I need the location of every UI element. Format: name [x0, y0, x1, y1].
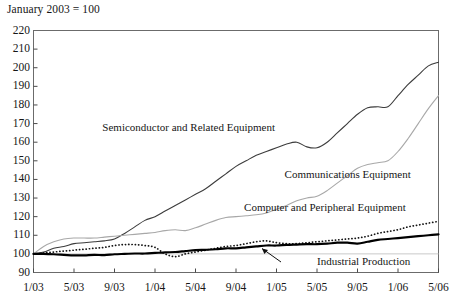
series-label-semiconductor: Semiconductor and Related Equipment [102, 121, 275, 133]
x-tick-5-05: 5/05 [307, 282, 327, 294]
x-tick-1-05: 1/05 [266, 282, 286, 294]
x-tick-9-05: 9/05 [347, 282, 367, 294]
series-label-computer: Computer and Peripheral Equipment [244, 201, 406, 213]
chart-figure: January 2003 = 100 901001101201301401501… [0, 0, 460, 308]
x-tick-9-04: 9/04 [226, 282, 246, 294]
x-tick-1-06: 1/06 [388, 282, 408, 294]
x-tick-1-03: 1/03 [23, 282, 43, 294]
x-tick-1-04: 1/04 [145, 282, 165, 294]
x-tick-5-06: 5/06 [428, 282, 448, 294]
series-label-industrial: Industrial Production [317, 255, 410, 267]
x-tick-5-03: 5/03 [64, 282, 84, 294]
x-tick-9-03: 9/03 [104, 282, 124, 294]
x-tick-5-04: 5/04 [185, 282, 205, 294]
series-label-communications: Communications Equipment [285, 168, 411, 180]
